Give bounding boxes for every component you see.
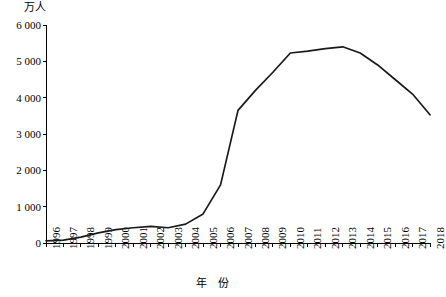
- data-series-line: [46, 47, 430, 241]
- x-axis-title: 年 份: [196, 277, 233, 289]
